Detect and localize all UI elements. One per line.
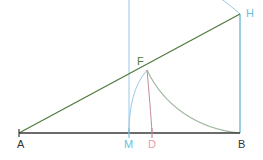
point-label-d: D [148,138,156,150]
arc-f-to-d [147,70,152,133]
arc-circle-centered-m [129,0,240,133]
point-label-f: F [137,55,144,67]
point-label-b: B [238,138,245,150]
point-label-a: A [17,138,25,150]
arc-m-to-f [129,70,147,133]
geometry-canvas: A B H F M D [0,0,263,160]
point-label-m: M [124,138,133,150]
point-label-h: H [246,7,254,19]
geometry-diagram: A B H F M D [0,0,263,160]
arc-f-to-b [147,70,240,133]
